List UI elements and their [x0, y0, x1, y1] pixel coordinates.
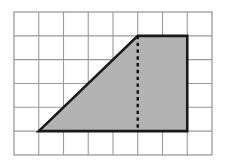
- geometry-figure: [0, 0, 226, 166]
- figure-container: [0, 0, 226, 166]
